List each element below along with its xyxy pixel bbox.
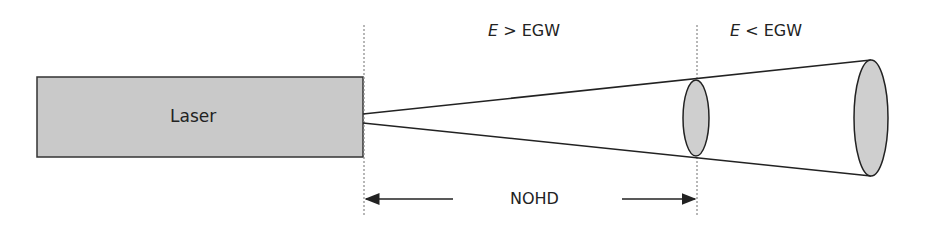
laser-label: Laser [170, 106, 216, 126]
beam-cross-section-nohd [683, 80, 709, 156]
comparison-op: > [503, 21, 516, 40]
nohd-label: NOHD [510, 189, 559, 208]
energy-var: E [730, 21, 740, 40]
beam-bottom-edge [363, 123, 871, 176]
beam-cross-section-far [854, 60, 888, 176]
region-label-far: E < EGW [730, 21, 802, 40]
egw-ref: EGW [764, 21, 802, 40]
region-label-near: E > EGW [488, 21, 560, 40]
egw-ref: EGW [522, 21, 560, 40]
energy-var: E [488, 21, 498, 40]
comparison-op: < [745, 21, 758, 40]
beam-top-edge [363, 60, 871, 114]
